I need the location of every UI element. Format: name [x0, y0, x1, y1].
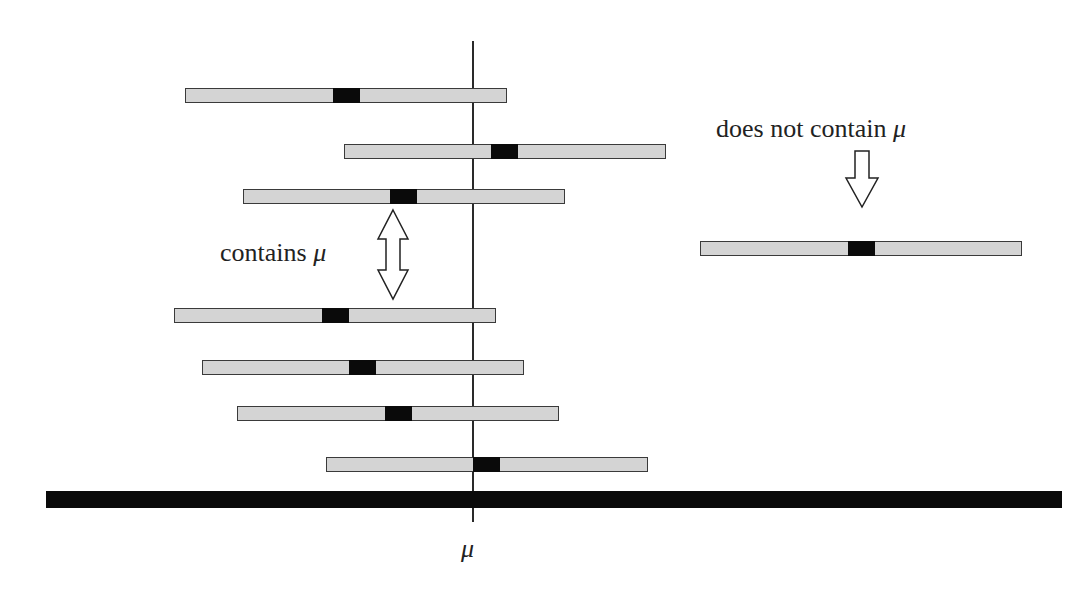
does-not-contain-text: does not contain [716, 114, 886, 143]
interval-containing-mu [237, 406, 559, 421]
double-arrow-icon [377, 209, 411, 301]
interval-containing-mu [326, 457, 648, 472]
population-mean-line [472, 41, 474, 522]
interval-containing-mu [202, 360, 524, 375]
point-estimate-marker [473, 457, 500, 472]
does-not-contain-label: does not contain μ [716, 116, 906, 142]
mu-axis-label: μ [461, 536, 474, 562]
point-estimate-marker [322, 308, 349, 323]
down-arrow-icon [846, 150, 878, 210]
contains-label: contains μ [220, 240, 326, 266]
point-estimate-marker [333, 88, 360, 103]
interval-containing-mu [185, 88, 507, 103]
point-estimate-marker [848, 241, 875, 256]
interval-containing-mu [174, 308, 496, 323]
number-line-axis [46, 491, 1062, 508]
mu-symbol: μ [893, 114, 906, 143]
interval-containing-mu [344, 144, 666, 159]
contains-text: contains [220, 238, 307, 267]
point-estimate-marker [385, 406, 412, 421]
interval-not-containing-mu [700, 241, 1022, 256]
mu-axis-symbol: μ [461, 534, 474, 563]
point-estimate-marker [491, 144, 518, 159]
interval-containing-mu [243, 189, 565, 204]
point-estimate-marker [390, 189, 417, 204]
mu-symbol: μ [313, 238, 326, 267]
point-estimate-marker [349, 360, 376, 375]
confidence-interval-diagram: does not contain μ contains μ μ [0, 0, 1090, 592]
